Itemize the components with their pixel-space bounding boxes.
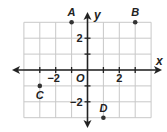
y-axis-label: y <box>93 8 102 22</box>
y-tick-label: 2 <box>76 32 82 44</box>
point-label: B <box>131 6 139 18</box>
point-label: C <box>36 89 45 101</box>
x-axis-label: x <box>155 54 164 68</box>
x-tick-label: −2 <box>47 72 60 84</box>
point-dot <box>101 115 106 120</box>
coordinate-plane: x y O −222−2 ABCD <box>0 0 167 132</box>
point-dot <box>133 20 138 25</box>
x-tick-label: 2 <box>116 72 122 84</box>
point-label: A <box>67 6 76 18</box>
point-dot <box>38 84 43 89</box>
y-tick-label: −2 <box>70 96 83 108</box>
point-label: D <box>99 102 107 114</box>
point-dot <box>69 20 74 25</box>
origin-label: O <box>76 72 85 84</box>
axes <box>12 12 162 128</box>
